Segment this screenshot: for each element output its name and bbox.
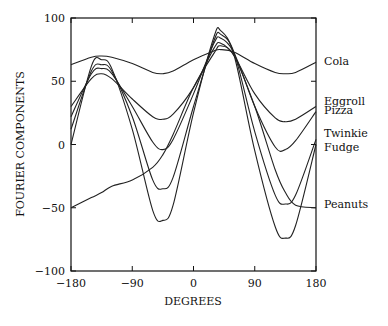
series-label-twinkie: Twinkie	[324, 127, 368, 140]
series-label-pizza: Pizza	[324, 104, 354, 117]
series-line-pizza	[71, 37, 316, 152]
x-tick-label: 180	[306, 277, 327, 290]
y-axis-title: FOURIER COMPONENTS	[14, 71, 27, 217]
x-tick-labels: −180−90090180	[56, 277, 327, 290]
x-tick-label: −180	[56, 277, 86, 290]
y-tick-label: 50	[51, 75, 65, 88]
x-axis-title: DEGREES	[164, 295, 222, 308]
y-tick-label: 0	[58, 139, 65, 152]
series-line-twinkie	[71, 32, 316, 204]
fourier-chart: −100−50050100 −180−90090180 ColaEggrollP…	[0, 0, 388, 326]
x-tick-label: 0	[190, 277, 197, 290]
series-labels: ColaEggrollPizzaTwinkieFudgePeanuts	[324, 55, 369, 211]
series-label-fudge: Fudge	[324, 141, 359, 154]
x-tick-label: 90	[248, 277, 262, 290]
series-label-peanuts: Peanuts	[324, 198, 369, 211]
series-label-cola: Cola	[324, 55, 350, 68]
y-tick-label: −50	[42, 202, 65, 215]
series-lines	[71, 27, 316, 238]
x-tick-label: −90	[121, 277, 144, 290]
y-tick-labels: −100−50050100	[35, 12, 65, 278]
y-tick-label: 100	[44, 12, 65, 25]
series-line-eggroll	[71, 42, 316, 121]
